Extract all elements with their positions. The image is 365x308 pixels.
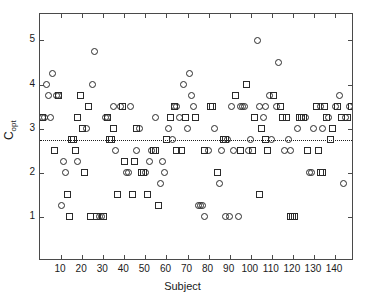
data-point-square	[258, 125, 265, 132]
data-point-circle	[157, 180, 164, 187]
data-point-square	[144, 191, 151, 198]
data-point-circle	[133, 147, 140, 154]
data-point-circle	[268, 136, 275, 143]
data-point-square	[251, 114, 258, 121]
data-point-circle	[247, 136, 254, 143]
data-point-square	[133, 125, 140, 132]
data-point-circle	[235, 213, 242, 220]
data-point-square	[323, 114, 330, 121]
x-tick-mark-top	[209, 14, 210, 18]
data-point-square	[85, 103, 92, 110]
reference-line	[40, 140, 352, 141]
x-tick-mark-top	[251, 14, 252, 18]
x-tick-mark	[335, 255, 336, 259]
data-point-square	[114, 191, 121, 198]
data-point-circle	[308, 169, 315, 176]
data-point-square	[334, 103, 341, 110]
y-tick-mark-right	[348, 173, 352, 174]
x-tick-mark	[61, 255, 62, 259]
data-point-circle	[184, 125, 191, 132]
data-point-square	[182, 114, 189, 121]
data-point-circle	[287, 147, 294, 154]
data-point-square	[329, 125, 336, 132]
x-tick-mark	[272, 255, 273, 259]
data-point-square	[70, 136, 77, 143]
x-axis-title: Subject	[0, 280, 365, 292]
data-point-circle	[241, 103, 248, 110]
plot-frame	[39, 13, 353, 260]
x-tick-mark-top	[145, 14, 146, 18]
data-point-circle	[336, 92, 343, 99]
data-point-square	[300, 114, 307, 121]
x-tick-mark-top	[124, 14, 125, 18]
data-point-square	[119, 103, 126, 110]
data-point-square	[55, 92, 62, 99]
data-point-square	[256, 191, 263, 198]
y-tick-mark-right	[348, 129, 352, 130]
data-point-square	[51, 147, 58, 154]
x-tick-mark-top	[272, 14, 273, 18]
data-point-circle	[165, 125, 172, 132]
data-point-circle	[74, 158, 81, 165]
data-point-square	[100, 213, 107, 220]
figure-canvas: Copt 102030405060708090100110120130140 1…	[0, 0, 365, 308]
x-tick-mark	[293, 255, 294, 259]
data-point-circle	[152, 114, 159, 121]
data-point-square	[237, 147, 244, 154]
y-tick-mark	[40, 40, 44, 41]
x-tick-mark	[251, 255, 252, 259]
data-point-circle	[190, 103, 197, 110]
data-point-square	[319, 169, 326, 176]
x-tick-mark-top	[230, 14, 231, 18]
data-point-square	[108, 136, 115, 143]
data-point-square	[344, 114, 351, 121]
data-point-square	[40, 114, 46, 121]
data-point-square	[72, 147, 79, 154]
data-point-circle	[60, 158, 67, 165]
x-tick-mark-top	[103, 14, 104, 18]
data-point-square	[66, 213, 73, 220]
y-tick-label: 2	[16, 166, 35, 177]
data-point-circle	[91, 48, 98, 55]
data-point-square	[140, 169, 147, 176]
data-point-square	[155, 202, 162, 209]
data-point-circle	[275, 59, 282, 66]
data-point-circle	[310, 125, 317, 132]
data-point-square	[270, 92, 277, 99]
data-point-circle	[89, 81, 96, 88]
x-tick-label: 140	[319, 263, 349, 274]
y-axis-title-base: C	[2, 131, 16, 140]
data-point-square	[348, 103, 352, 110]
plot-area	[40, 14, 352, 259]
data-point-square	[313, 103, 320, 110]
data-point-circle	[340, 180, 347, 187]
data-point-circle	[226, 213, 233, 220]
data-point-square	[64, 191, 71, 198]
data-point-square	[249, 147, 256, 154]
data-point-circle	[294, 125, 301, 132]
data-point-square	[209, 103, 216, 110]
data-point-circle	[169, 136, 176, 143]
data-point-square	[277, 103, 284, 110]
data-point-circle	[180, 81, 187, 88]
y-tick-label: 4	[16, 78, 35, 89]
data-point-square	[171, 103, 178, 110]
data-point-square	[167, 114, 174, 121]
data-point-square	[243, 81, 250, 88]
y-tick-mark	[40, 85, 44, 86]
data-point-square	[232, 92, 239, 99]
data-point-square	[110, 125, 117, 132]
x-tick-mark-top	[335, 14, 336, 18]
data-point-circle	[161, 169, 168, 176]
data-point-square	[163, 136, 170, 143]
y-tick-label: 1	[16, 210, 35, 221]
data-point-circle	[186, 70, 193, 77]
data-point-square	[74, 114, 81, 121]
data-point-circle	[62, 169, 69, 176]
x-tick-mark-top	[314, 14, 315, 18]
y-tick-label: 3	[16, 122, 35, 133]
data-point-square	[192, 114, 199, 121]
data-point-square	[81, 169, 88, 176]
x-tick-mark-top	[293, 14, 294, 18]
data-point-circle	[49, 70, 56, 77]
